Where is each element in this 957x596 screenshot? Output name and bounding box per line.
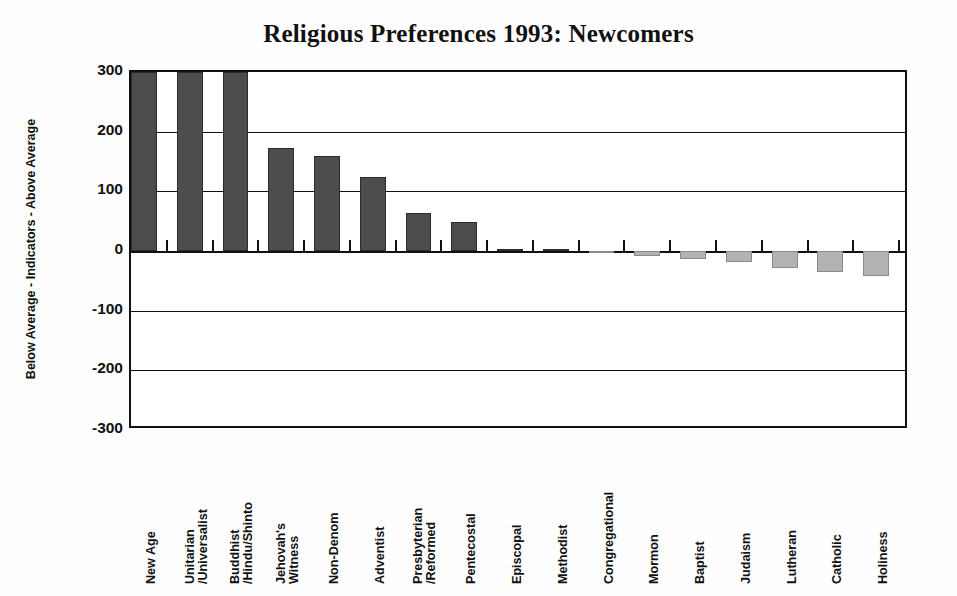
bar [543,249,569,251]
x-tick-mark [532,240,534,251]
x-tick-mark [807,240,809,251]
category-label-line: Catholic [831,434,844,584]
category-label: Congregational [587,434,633,584]
x-tick-mark [257,240,259,251]
category-label-line: Unitarian [184,434,197,584]
x-tick-mark [212,240,214,251]
category-label-text: Lutheran [786,434,799,584]
bar [772,251,798,268]
category-label: Episcopal [495,434,541,584]
x-tick-mark [761,240,763,251]
x-tick-mark [349,240,351,251]
plot-area [129,70,907,428]
category-label-line: Lutheran [786,434,799,584]
bar-slot [543,72,589,426]
x-tick-mark [578,240,580,251]
bar [863,251,889,276]
category-label-text: Buddhist/Hindu/Shinto [229,434,255,584]
category-label-text: Presbyterian/Reformed [412,434,438,584]
x-tick-mark [395,240,397,251]
y-tick-label: -200 [65,362,123,374]
bar-slot [223,72,269,426]
bar-slot [451,72,497,426]
x-tick-mark [852,240,854,251]
bar [268,148,294,251]
bar [589,251,615,253]
y-tick-label: 0 [65,243,123,255]
bar-slot [268,72,314,426]
category-label-line: Pentecostal [465,434,478,584]
category-label-line: Holiness [877,434,890,584]
category-label-line: Baptist [694,434,707,584]
x-axis-category-labels: New AgeUnitarian/UniversalistBuddhist/Hi… [129,434,907,584]
category-label-text: Mormon [648,434,661,584]
category-label: New Age [129,434,175,584]
bar [726,251,752,262]
bar [223,72,249,251]
x-tick-mark [303,240,305,251]
bar-slot [177,72,223,426]
category-label: Non-Denom [312,434,358,584]
bar-series [131,72,905,426]
category-label: Baptist [678,434,724,584]
y-axis-tick-labels: 3002001000-100-200-300 [55,70,123,428]
category-label: Judaism [724,434,770,584]
bar [177,72,203,251]
bar [680,251,706,259]
x-tick-mark [440,240,442,251]
bar [497,249,523,251]
category-label-text: Catholic [831,434,844,584]
category-label-line: Episcopal [511,434,524,584]
category-label: Lutheran [770,434,816,584]
x-tick-mark [486,240,488,251]
y-tick-label: -300 [65,422,123,434]
bar [131,72,157,251]
bar-slot [817,72,863,426]
bar-slot [863,72,907,426]
category-label-text: Adventist [374,434,387,584]
chart-figure: Religious Preferences 1993: Newcomers Be… [0,0,957,596]
bar-slot [497,72,543,426]
category-label-line: Congregational [603,434,616,584]
category-label: Presbyterian/Reformed [404,434,450,584]
x-tick-mark [898,240,900,251]
bar-slot [360,72,406,426]
bar-slot [314,72,360,426]
category-label: Jehovah'sWitness [266,434,312,584]
bar-slot [680,72,726,426]
bar [314,156,340,251]
category-label-line: Mormon [648,434,661,584]
y-axis-title: Below Average - Indicators - Above Avera… [20,70,42,428]
category-label-text: Baptist [694,434,707,584]
bar-slot [406,72,452,426]
category-label-line: Methodist [557,434,570,584]
category-label-text: Methodist [557,434,570,584]
bar-slot [634,72,680,426]
category-label-text: Jehovah'sWitness [275,434,301,584]
category-label-line: /Hindu/Shinto [243,434,256,584]
y-tick-label: -100 [65,303,123,315]
category-label: Methodist [541,434,587,584]
category-label-line: Judaism [740,434,753,584]
category-label-line: New Age [145,434,158,584]
bar-slot [772,72,818,426]
category-label: Adventist [358,434,404,584]
category-label: Unitarian/Universalist [175,434,221,584]
category-label-text: Judaism [740,434,753,584]
bar [406,213,432,251]
category-label: Holiness [861,434,907,584]
bar [360,177,386,251]
category-label-line: Witness [288,434,301,584]
y-tick-label: 300 [65,64,123,76]
x-tick-mark [166,240,168,251]
x-tick-mark [715,240,717,251]
category-label-line: /Reformed [426,434,439,584]
category-label-line: Non-Denom [328,434,341,584]
category-label-text: Congregational [603,434,616,584]
bar-slot [589,72,635,426]
page-title: Religious Preferences 1993: Newcomers [0,20,957,48]
category-label-text: Non-Denom [328,434,341,584]
category-label-text: Unitarian/Universalist [184,434,210,584]
category-label-text: Holiness [877,434,890,584]
category-label-line: /Universalist [197,434,210,584]
